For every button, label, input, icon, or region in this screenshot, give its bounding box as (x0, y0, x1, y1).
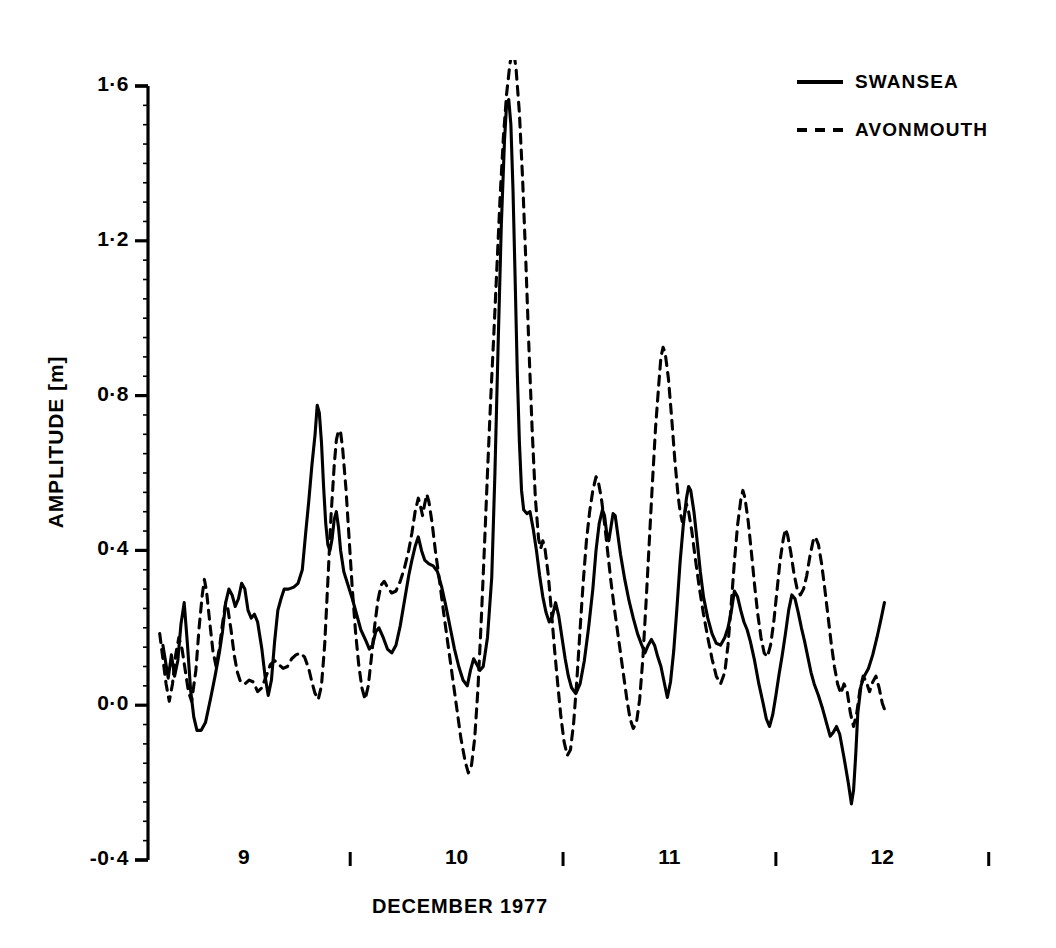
legend-item-avonmouth: AVONMOUTH (797, 116, 988, 144)
x-axis-tick-label: 10 (427, 845, 487, 869)
legend-label: SWANSEA (855, 71, 959, 93)
y-axis-title: AMPLITUDE [m] (44, 332, 68, 552)
y-axis-tick-label: 0·0 (39, 691, 129, 715)
legend-line-sample-dashed (797, 128, 843, 132)
y-axis-tick-label: -0·4 (39, 846, 129, 870)
x-axis-tick-label: 11 (639, 845, 699, 869)
legend-line-sample-solid (797, 80, 843, 84)
y-axis-tick-label: 0·4 (39, 536, 129, 560)
legend-label: AVONMOUTH (855, 119, 988, 141)
series-line-avonmouth (160, 51, 885, 773)
y-axis-tick-label: 0·8 (39, 382, 129, 406)
chart-figure: AMPLITUDE [m] DECEMBER 1977 1·61·20·80·4… (0, 0, 1056, 948)
x-axis-title: DECEMBER 1977 (300, 895, 620, 918)
x-axis-tick-label: 12 (852, 845, 912, 869)
y-axis-tick-label: 1·2 (39, 227, 129, 251)
axes (135, 86, 989, 866)
y-axis-tick-label: 1·6 (39, 72, 129, 96)
legend-item-swansea: SWANSEA (797, 68, 959, 96)
x-axis-tick-label: 9 (214, 845, 274, 869)
data-series (160, 51, 885, 804)
